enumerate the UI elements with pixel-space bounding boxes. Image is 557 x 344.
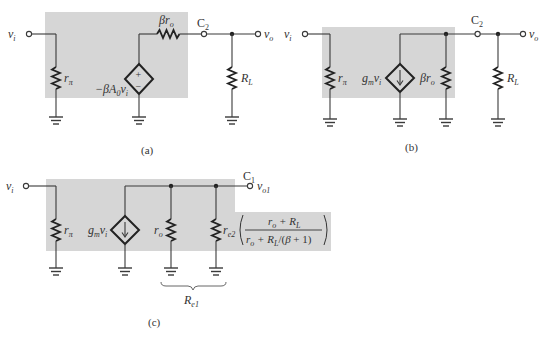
load-label-a: RL xyxy=(240,71,253,87)
panel-b: vi rπ gmvi βro C2 xyxy=(284,13,538,154)
ground-icon xyxy=(49,268,63,275)
output-label-c: vo1 xyxy=(257,179,270,195)
load-resistor-a xyxy=(225,34,239,124)
ground-icon xyxy=(393,119,407,126)
input-label-b: vi xyxy=(284,27,292,43)
input-label-a: vi xyxy=(8,27,16,43)
caption-a: (a) xyxy=(141,144,154,157)
caption-c: (c) xyxy=(148,316,161,329)
source-label-a: −βA0vi xyxy=(95,82,128,98)
c1-label-c: C1 xyxy=(243,169,255,185)
caption-b: (b) xyxy=(405,141,418,154)
ground-icon xyxy=(323,119,337,126)
brace-label-c: Re1 xyxy=(183,293,199,309)
ground-icon xyxy=(439,119,453,126)
ground-icon xyxy=(209,268,223,275)
panel-c: vi rπ gmvi ro xyxy=(6,169,331,329)
ground-icon xyxy=(132,117,146,124)
panel-a: vi rπ + − −βA0vi βro C2 xyxy=(8,12,273,157)
ground-icon xyxy=(49,117,63,124)
shaded-region-b xyxy=(322,27,455,98)
plus-sign: + xyxy=(136,69,142,80)
load-label-b: RL xyxy=(506,71,519,87)
input-label-c: vi xyxy=(6,179,14,195)
output-label-b: vo xyxy=(529,27,538,43)
ground-icon xyxy=(225,117,239,124)
c2-terminal-b xyxy=(475,31,480,36)
circuit-figure: vi rπ + − −βA0vi βro C2 xyxy=(0,0,557,344)
output-terminal-a xyxy=(255,31,260,36)
minus-sign: − xyxy=(136,81,142,92)
ground-icon xyxy=(118,268,132,275)
ground-icon xyxy=(164,268,178,275)
load-resistor-b xyxy=(491,34,505,126)
output-terminal-b xyxy=(520,31,525,36)
brace xyxy=(161,282,226,290)
c2-label-b: C2 xyxy=(471,13,483,29)
c2-terminal-a xyxy=(201,31,206,36)
ground-icon xyxy=(491,119,505,126)
c2-label-a: C2 xyxy=(197,16,209,32)
output-label-a: vo xyxy=(264,27,273,43)
